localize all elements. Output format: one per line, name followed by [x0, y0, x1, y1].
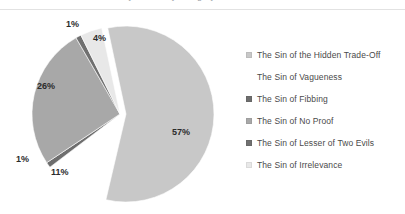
page-title: Survey results by category — [104, 0, 215, 1]
pie-chart-plot-area: 57%11%1%26%1%4% — [0, 10, 245, 214]
legend-item[interactable]: The Sin of Vagueness — [246, 66, 405, 88]
legend-item[interactable]: The Sin of Irrelevance — [246, 154, 405, 176]
legend-item-label: The Sin of No Proof — [257, 116, 334, 126]
legend-item-label: The Sin of Fibbing — [257, 94, 328, 104]
pie-slice-value-label: 11% — [51, 168, 69, 177]
legend-swatch-icon — [246, 96, 252, 102]
clipped-title-strip: Survey results by category — [0, 0, 405, 9]
legend-swatch-icon — [246, 162, 252, 168]
legend-swatch-icon — [246, 118, 252, 124]
pie-slice-value-label: 26% — [37, 82, 55, 91]
legend-item[interactable]: The Sin of the Hidden Trade-Off — [246, 44, 405, 66]
pie-slice-value-label: 57% — [172, 128, 190, 137]
legend-item-label: The Sin of the Hidden Trade-Off — [257, 50, 380, 60]
pie-slice[interactable] — [106, 26, 214, 202]
pie-chart-svg — [0, 10, 245, 214]
legend-item-label: The Sin of Irrelevance — [257, 160, 342, 170]
legend-swatch-icon — [246, 74, 252, 80]
pie-slice-value-label: 1% — [16, 155, 29, 164]
legend-item[interactable]: The Sin of Fibbing — [246, 88, 405, 110]
legend-item[interactable]: The Sin of No Proof — [246, 110, 405, 132]
pie-slice-value-label: 4% — [93, 34, 106, 43]
legend-item-label: The Sin of Lesser of Two Evils — [257, 138, 374, 148]
legend-swatch-icon — [246, 140, 252, 146]
pie-slice-value-label: 1% — [66, 20, 79, 29]
legend-item[interactable]: The Sin of Lesser of Two Evils — [246, 132, 405, 154]
legend-swatch-icon — [246, 52, 252, 58]
chart-page: Survey results by category 57%11%1%26%1%… — [0, 0, 405, 214]
chart-legend: The Sin of the Hidden Trade-OffThe Sin o… — [246, 44, 405, 176]
legend-item-label: The Sin of Vagueness — [257, 72, 342, 82]
